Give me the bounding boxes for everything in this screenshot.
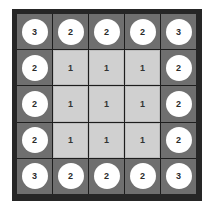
board-cell-r4-c3[interactable]: 2 bbox=[125, 159, 160, 194]
board-cell-r1-c3[interactable]: 1 bbox=[125, 50, 160, 85]
board-cell-r2-c4[interactable]: 2 bbox=[161, 86, 196, 121]
board-cell-r1-c4[interactable]: 2 bbox=[161, 50, 196, 85]
game-board: 3 2 2 2 3 2 1 1 1 2 2 1 1 1 2 2 1 1 1 2 … bbox=[12, 9, 202, 201]
board-cell-r4-c4[interactable]: 3 bbox=[161, 159, 196, 194]
cell-value: 1 bbox=[68, 63, 73, 73]
board-grid: 3 2 2 2 3 2 1 1 1 2 2 1 1 1 2 2 1 1 1 2 … bbox=[17, 14, 196, 194]
cell-value: 2 bbox=[104, 171, 109, 181]
board-cell-r4-c0[interactable]: 3 bbox=[17, 159, 52, 194]
cell-value: 2 bbox=[176, 63, 181, 73]
board-cell-r0-c2[interactable]: 2 bbox=[89, 14, 124, 49]
board-cell-r0-c3[interactable]: 2 bbox=[125, 14, 160, 49]
disc-piece[interactable]: 2 bbox=[130, 19, 156, 45]
cell-value: 2 bbox=[104, 27, 109, 37]
board-cell-r1-c0[interactable]: 2 bbox=[17, 50, 52, 85]
disc-piece[interactable]: 2 bbox=[166, 55, 192, 81]
cell-value: 3 bbox=[32, 171, 37, 181]
board-cell-r3-c1[interactable]: 1 bbox=[53, 123, 88, 158]
board-cell-r3-c0[interactable]: 2 bbox=[17, 123, 52, 158]
disc-piece[interactable]: 2 bbox=[58, 163, 84, 189]
cell-value: 1 bbox=[140, 99, 145, 109]
disc-piece[interactable]: 3 bbox=[22, 163, 48, 189]
cell-value: 1 bbox=[68, 99, 73, 109]
cell-value: 1 bbox=[140, 63, 145, 73]
disc-piece[interactable]: 2 bbox=[58, 19, 84, 45]
disc-piece[interactable]: 3 bbox=[166, 19, 192, 45]
cell-value: 2 bbox=[176, 135, 181, 145]
board-cell-r2-c2[interactable]: 1 bbox=[89, 86, 124, 121]
board-cell-r1-c1[interactable]: 1 bbox=[53, 50, 88, 85]
cell-value: 3 bbox=[32, 27, 37, 37]
cell-value: 2 bbox=[140, 171, 145, 181]
cell-value: 2 bbox=[32, 135, 37, 145]
disc-piece[interactable]: 3 bbox=[166, 163, 192, 189]
cell-value: 2 bbox=[176, 99, 181, 109]
board-cell-r0-c1[interactable]: 2 bbox=[53, 14, 88, 49]
disc-piece[interactable]: 2 bbox=[166, 91, 192, 117]
board-cell-r2-c3[interactable]: 1 bbox=[125, 86, 160, 121]
cell-value: 3 bbox=[176, 27, 181, 37]
cell-value: 2 bbox=[140, 27, 145, 37]
disc-piece[interactable]: 2 bbox=[94, 19, 120, 45]
cell-value: 1 bbox=[104, 135, 109, 145]
disc-piece[interactable]: 2 bbox=[22, 91, 48, 117]
cell-value: 2 bbox=[32, 63, 37, 73]
board-cell-r2-c0[interactable]: 2 bbox=[17, 86, 52, 121]
cell-value: 2 bbox=[68, 171, 73, 181]
disc-piece[interactable]: 2 bbox=[94, 163, 120, 189]
disc-piece[interactable]: 3 bbox=[22, 19, 48, 45]
board-cell-r0-c4[interactable]: 3 bbox=[161, 14, 196, 49]
board-cell-r3-c4[interactable]: 2 bbox=[161, 123, 196, 158]
cell-value: 1 bbox=[140, 135, 145, 145]
board-cell-r1-c2[interactable]: 1 bbox=[89, 50, 124, 85]
board-cell-r4-c1[interactable]: 2 bbox=[53, 159, 88, 194]
board-cell-r3-c3[interactable]: 1 bbox=[125, 123, 160, 158]
board-cell-r3-c2[interactable]: 1 bbox=[89, 123, 124, 158]
board-cell-r0-c0[interactable]: 3 bbox=[17, 14, 52, 49]
cell-value: 1 bbox=[68, 135, 73, 145]
disc-piece[interactable]: 2 bbox=[22, 55, 48, 81]
disc-piece[interactable]: 2 bbox=[166, 127, 192, 153]
cell-value: 2 bbox=[68, 27, 73, 37]
board-cell-r2-c1[interactable]: 1 bbox=[53, 86, 88, 121]
cell-value: 3 bbox=[176, 171, 181, 181]
cell-value: 1 bbox=[104, 99, 109, 109]
disc-piece[interactable]: 2 bbox=[22, 127, 48, 153]
cell-value: 1 bbox=[104, 63, 109, 73]
board-cell-r4-c2[interactable]: 2 bbox=[89, 159, 124, 194]
cell-value: 2 bbox=[32, 99, 37, 109]
disc-piece[interactable]: 2 bbox=[130, 163, 156, 189]
